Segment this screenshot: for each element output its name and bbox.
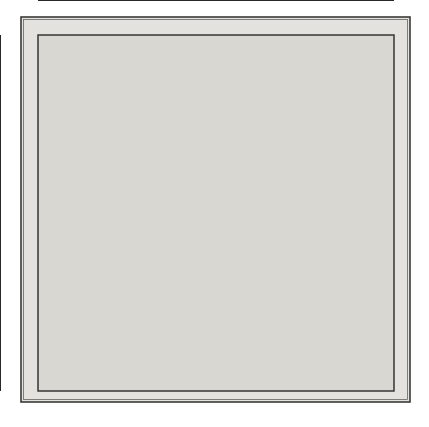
quilt-diagram-svg: Pieced quilt block diagram Black-and-whi… [0, 0, 429, 427]
quilt-field-base [38, 35, 394, 391]
quilt-diagram-figure: Pieced quilt block diagram Black-and-whi… [0, 0, 429, 427]
quilt-patch-grid [38, 35, 394, 391]
